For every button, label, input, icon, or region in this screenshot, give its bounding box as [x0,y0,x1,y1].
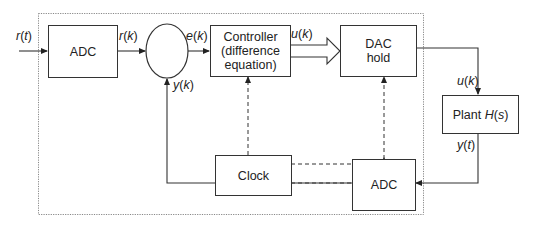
signal-y-k-arg: k [183,78,189,92]
dac-label-1: DAC [365,37,391,51]
adc-input-label: ADC [70,45,96,59]
adc-feedback-label: ADC [371,178,397,192]
dac-hold-block: DAC hold [340,25,417,77]
signal-u-k-plant-var: u [457,74,464,88]
signal-r-k-var: r [119,29,123,43]
signal-u-k-var: u [291,27,298,41]
plant-block: Plant H(s) [442,95,519,134]
signal-y-k: y(k) [173,78,194,92]
signal-y-k-var: y [173,78,179,92]
signal-r-t-arg: t [24,29,27,43]
arrow-uk-to-dac [290,38,340,64]
summing-junction [146,24,188,78]
clock-label: Clock [238,169,269,183]
controller-block: Controller (difference equation) [210,25,291,77]
signal-r-k: r(k) [119,29,138,43]
adc-feedback-block: ADC [352,159,416,211]
signal-u-k-plant: u(k) [457,74,479,88]
signal-y-t-var: y [457,138,463,152]
signal-r-k-arg: k [127,29,133,43]
signal-u-k-plant-arg: k [468,74,474,88]
signal-e-k: e(k) [186,29,208,43]
signal-e-k-var: e [186,29,193,43]
clock-to-dac [291,77,384,164]
signal-e-k-arg: k [197,29,203,43]
plant-paren-close: ) [504,108,508,122]
signal-r-t: r(t) [16,29,32,43]
signal-r-t-var: r [16,29,20,43]
adc-input-block: ADC [48,25,118,78]
plant-func: H [485,108,494,122]
signal-u-k-arg: k [302,27,308,41]
signal-y-t: y(t) [457,138,475,152]
controller-label-1: Controller [223,30,277,44]
plant-label: Plant H(s) [453,108,509,122]
signal-y-t-arg: t [467,138,470,152]
signal-u-k-controller: u(k) [291,27,313,41]
controller-label-3: equation) [224,58,276,72]
dac-label-2: hold [367,51,391,65]
controller-label-2: (difference [221,44,280,58]
plant-text: Plant [453,108,485,122]
clock-block: Clock [215,155,292,196]
